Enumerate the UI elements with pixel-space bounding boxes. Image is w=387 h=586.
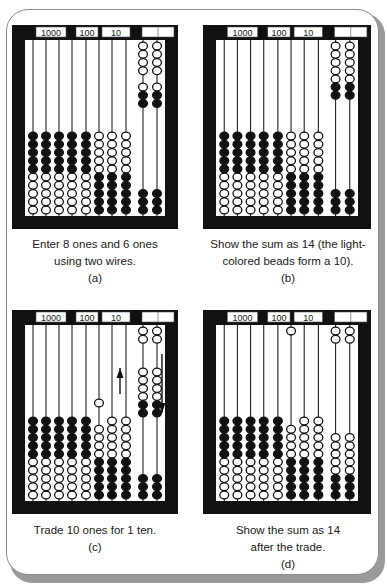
light-bead[interactable] — [259, 475, 268, 483]
light-bead[interactable] — [287, 140, 296, 148]
light-bead[interactable] — [287, 157, 296, 165]
light-bead[interactable] — [246, 198, 255, 206]
dark-bead[interactable] — [95, 475, 104, 483]
dark-bead[interactable] — [55, 140, 64, 148]
dark-bead[interactable] — [287, 483, 296, 491]
dark-bead[interactable] — [233, 165, 242, 173]
dark-bead[interactable] — [139, 100, 148, 108]
dark-bead[interactable] — [29, 165, 38, 173]
light-bead[interactable] — [95, 132, 104, 140]
light-bead[interactable] — [331, 442, 340, 450]
light-bead[interactable] — [42, 491, 51, 499]
light-bead[interactable] — [122, 434, 131, 442]
dark-bead[interactable] — [273, 442, 282, 450]
dark-bead[interactable] — [153, 100, 162, 108]
light-bead[interactable] — [82, 181, 91, 189]
light-bead[interactable] — [345, 42, 354, 50]
light-bead[interactable] — [95, 425, 104, 433]
light-bead[interactable] — [153, 368, 162, 376]
light-bead[interactable] — [287, 149, 296, 157]
dark-bead[interactable] — [331, 91, 340, 99]
light-bead[interactable] — [108, 425, 117, 433]
dark-bead[interactable] — [29, 442, 38, 450]
dark-bead[interactable] — [220, 425, 229, 433]
dark-bead[interactable] — [345, 206, 354, 214]
dark-bead[interactable] — [108, 206, 117, 214]
light-bead[interactable] — [139, 368, 148, 376]
light-bead[interactable] — [259, 181, 268, 189]
dark-bead[interactable] — [122, 198, 131, 206]
light-bead[interactable] — [220, 173, 229, 181]
light-bead[interactable] — [331, 450, 340, 458]
light-bead[interactable] — [345, 450, 354, 458]
light-bead[interactable] — [139, 385, 148, 393]
light-bead[interactable] — [300, 442, 309, 450]
dark-bead[interactable] — [82, 157, 91, 165]
dark-bead[interactable] — [331, 198, 340, 206]
dark-bead[interactable] — [108, 475, 117, 483]
light-bead[interactable] — [300, 450, 309, 458]
light-bead[interactable] — [42, 206, 51, 214]
dark-bead[interactable] — [42, 450, 51, 458]
dark-bead[interactable] — [259, 425, 268, 433]
light-bead[interactable] — [273, 491, 282, 499]
light-bead[interactable] — [55, 206, 64, 214]
dark-bead[interactable] — [29, 425, 38, 433]
dark-bead[interactable] — [287, 173, 296, 181]
light-bead[interactable] — [55, 198, 64, 206]
dark-bead[interactable] — [55, 434, 64, 442]
light-bead[interactable] — [273, 475, 282, 483]
light-bead[interactable] — [108, 140, 117, 148]
dark-bead[interactable] — [300, 181, 309, 189]
light-bead[interactable] — [233, 491, 242, 499]
light-bead[interactable] — [246, 190, 255, 198]
light-bead[interactable] — [42, 190, 51, 198]
dark-bead[interactable] — [345, 475, 354, 483]
light-bead[interactable] — [68, 483, 77, 491]
light-bead[interactable] — [233, 181, 242, 189]
dark-bead[interactable] — [246, 450, 255, 458]
light-bead[interactable] — [300, 149, 309, 157]
light-bead[interactable] — [314, 132, 323, 140]
dark-bead[interactable] — [68, 140, 77, 148]
dark-bead[interactable] — [139, 401, 148, 409]
dark-bead[interactable] — [273, 149, 282, 157]
light-bead[interactable] — [29, 458, 38, 466]
dark-bead[interactable] — [314, 198, 323, 206]
dark-bead[interactable] — [122, 173, 131, 181]
dark-bead[interactable] — [153, 483, 162, 491]
light-bead[interactable] — [246, 206, 255, 214]
light-bead[interactable] — [55, 483, 64, 491]
light-bead[interactable] — [122, 140, 131, 148]
dark-bead[interactable] — [273, 417, 282, 425]
light-bead[interactable] — [259, 483, 268, 491]
dark-bead[interactable] — [331, 83, 340, 91]
dark-bead[interactable] — [233, 140, 242, 148]
dark-bead[interactable] — [42, 434, 51, 442]
light-bead[interactable] — [153, 50, 162, 58]
dark-bead[interactable] — [42, 157, 51, 165]
light-bead[interactable] — [68, 173, 77, 181]
dark-bead[interactable] — [314, 466, 323, 474]
dark-bead[interactable] — [259, 149, 268, 157]
dark-bead[interactable] — [331, 206, 340, 214]
dark-bead[interactable] — [82, 450, 91, 458]
dark-bead[interactable] — [108, 466, 117, 474]
light-bead[interactable] — [233, 206, 242, 214]
light-bead[interactable] — [233, 483, 242, 491]
light-bead[interactable] — [42, 475, 51, 483]
light-bead[interactable] — [29, 483, 38, 491]
light-bead[interactable] — [259, 190, 268, 198]
dark-bead[interactable] — [153, 491, 162, 499]
light-bead[interactable] — [153, 67, 162, 75]
light-bead[interactable] — [55, 181, 64, 189]
light-bead[interactable] — [29, 466, 38, 474]
dark-bead[interactable] — [153, 206, 162, 214]
dark-bead[interactable] — [314, 190, 323, 198]
dark-bead[interactable] — [259, 417, 268, 425]
light-bead[interactable] — [331, 75, 340, 83]
dark-bead[interactable] — [122, 466, 131, 474]
dark-bead[interactable] — [42, 140, 51, 148]
dark-bead[interactable] — [68, 425, 77, 433]
light-bead[interactable] — [220, 483, 229, 491]
